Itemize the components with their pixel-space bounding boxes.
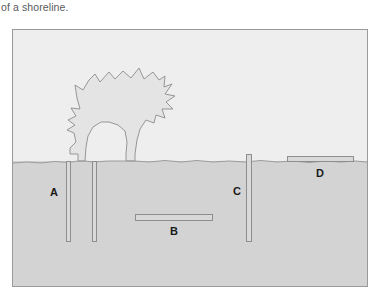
marker-d-bar — [287, 156, 354, 162]
figure-caption: of a shoreline. — [1, 1, 301, 14]
marker-a-bar-right — [92, 161, 97, 242]
figure-frame: A B C D — [12, 29, 368, 287]
marker-c-bar — [246, 154, 252, 242]
marker-a-label: A — [50, 187, 58, 198]
marker-a-bar-left — [66, 161, 71, 242]
marker-d-label: D — [316, 168, 324, 179]
tree-shaped-landmass — [67, 68, 175, 161]
marker-c-label: C — [233, 186, 241, 197]
marker-b-bar — [135, 214, 213, 221]
marker-b-label: B — [170, 226, 178, 237]
